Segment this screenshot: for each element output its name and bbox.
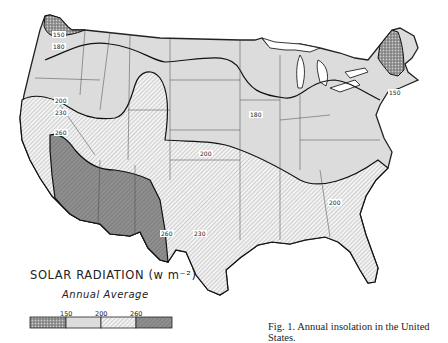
svg-text:260: 260 bbox=[161, 230, 173, 237]
svg-text:230: 230 bbox=[194, 230, 206, 237]
svg-text:150: 150 bbox=[53, 31, 65, 38]
svg-text:180: 180 bbox=[250, 111, 262, 118]
figure-caption: Fig. 1. Annual insolation in the United … bbox=[268, 321, 448, 343]
legend-tick-150: 150 bbox=[60, 310, 72, 318]
svg-text:200: 200 bbox=[329, 199, 341, 206]
legend-tick-200: 200 bbox=[95, 310, 107, 318]
legend-title: SOLAR RADIATION (w m⁻²) bbox=[30, 268, 197, 282]
svg-text:150: 150 bbox=[389, 89, 401, 96]
svg-text:260: 260 bbox=[55, 129, 67, 136]
legend-bar bbox=[30, 317, 172, 328]
legend-subtitle: Annual Average bbox=[62, 289, 149, 300]
legend-tick-260: 260 bbox=[130, 310, 142, 318]
svg-text:230: 230 bbox=[55, 109, 67, 116]
svg-text:180: 180 bbox=[53, 43, 65, 50]
svg-text:200: 200 bbox=[200, 150, 212, 157]
svg-text:200: 200 bbox=[55, 97, 67, 104]
